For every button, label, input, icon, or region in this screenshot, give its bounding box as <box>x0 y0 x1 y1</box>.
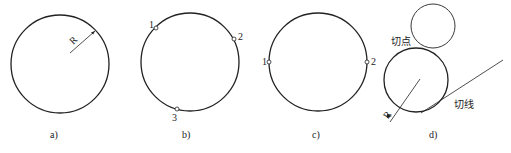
radius-label: R <box>67 34 80 47</box>
circle-c <box>269 13 367 111</box>
figure-c: 1 2 c) <box>262 13 376 141</box>
circle-diagrams: R a) 1 2 3 b) 1 2 c) R 切点 切线 d) <box>0 0 511 153</box>
small-circle <box>411 4 455 48</box>
caption-a: a) <box>50 129 58 141</box>
circle-a <box>11 15 109 113</box>
point-3 <box>175 107 179 111</box>
point-1-label: 1 <box>262 56 267 67</box>
figure-a: R a) <box>11 15 109 141</box>
point-2-label: 2 <box>238 31 243 42</box>
tangent-line-label: 切线 <box>454 98 474 110</box>
point-2 <box>232 37 236 41</box>
radius-line <box>390 79 420 122</box>
caption-b: b) <box>182 129 190 141</box>
point-1 <box>154 26 158 30</box>
figure-d: R 切点 切线 d) <box>381 4 503 141</box>
caption-d: d) <box>429 129 437 141</box>
point-1 <box>267 60 271 64</box>
main-circle <box>384 48 448 112</box>
point-2-label: 2 <box>371 56 376 67</box>
caption-c: c) <box>312 129 320 141</box>
figure-b: 1 2 3 b) <box>141 13 243 141</box>
point-1-label: 1 <box>149 19 154 30</box>
point-2 <box>365 60 369 64</box>
tangent-point-label: 切点 <box>391 36 411 47</box>
point-3-label: 3 <box>172 112 177 123</box>
